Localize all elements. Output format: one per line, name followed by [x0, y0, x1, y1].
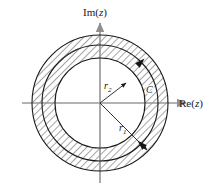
im-label-prefix: Im( — [83, 6, 99, 19]
figure-container: Im(z) Re(z) r2 r1 C C — [0, 0, 213, 193]
re-label-prefix: Re( — [179, 97, 195, 110]
im-label-suffix: ) — [103, 6, 107, 19]
contour-label: C — [146, 84, 153, 95]
re-label-suffix: ) — [199, 97, 203, 110]
contour-label-group: C C — [146, 84, 153, 95]
radius-r1-subscript: 1 — [123, 128, 127, 136]
radius-r2-subscript: 2 — [108, 86, 112, 94]
real-axis-label: Re(z) — [179, 97, 203, 110]
imaginary-axis-label: Im(z) — [83, 6, 107, 19]
complex-plane-annulus-diagram: Im(z) Re(z) r2 r1 C C — [0, 0, 213, 193]
